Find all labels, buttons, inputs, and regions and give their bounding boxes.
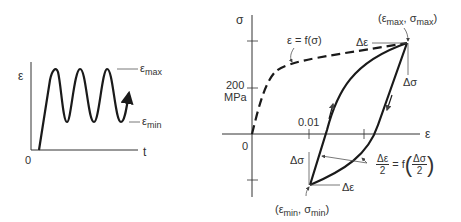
left-panel xyxy=(31,62,140,150)
lhs-den: 2 xyxy=(376,165,389,176)
lhs-fraction: Δε2 xyxy=(376,153,389,176)
max-sub1: max xyxy=(387,17,404,27)
min-point-leader xyxy=(306,187,309,196)
epsilon-axis-label: ε xyxy=(425,128,430,140)
delta-sigma-bottom-label: Δσ xyxy=(290,155,304,166)
relation-eq: = f xyxy=(392,158,405,170)
eps-tick-value: 0.01 xyxy=(298,117,319,128)
max-close: ) xyxy=(434,12,438,24)
hysteresis-relation: Δε2 = f(Δσ2) xyxy=(376,153,434,176)
strain-time-curve xyxy=(39,69,129,150)
min-close: ) xyxy=(326,203,330,215)
right-origin-label: 0 xyxy=(242,141,248,152)
sigma-tick-value: 200 xyxy=(226,80,244,91)
max-mid: , σ xyxy=(404,12,417,24)
max-point-leader xyxy=(404,28,408,41)
max-point-label: (εmax, σmax) xyxy=(378,13,437,27)
relation-leader-1 xyxy=(322,156,367,163)
lhs-num: Δε xyxy=(376,153,389,165)
min-sub1: min xyxy=(284,208,299,218)
open-paren: ( xyxy=(405,152,412,177)
left-origin-label: 0 xyxy=(25,155,31,166)
min-open: (ε xyxy=(275,203,284,215)
eps-max-sub: max xyxy=(145,67,162,77)
max-open: (ε xyxy=(378,12,387,24)
min-point-label: (εmin, σmin) xyxy=(275,204,329,218)
eps-min-sub: min xyxy=(147,120,162,130)
min-mid: , σ xyxy=(298,203,311,215)
monotonic-curve-label: ε = f(σ) xyxy=(287,35,322,46)
eps-min-label: εmin xyxy=(142,116,161,130)
eps-max-label: εmax xyxy=(140,63,162,77)
delta-sigma-top-label: Δσ xyxy=(403,77,417,88)
diagram-canvas xyxy=(0,0,461,222)
min-sub2: min xyxy=(311,208,326,218)
close-paren: ) xyxy=(427,152,434,177)
left-y-axis-label: ε xyxy=(18,70,23,82)
rhs-den: 2 xyxy=(412,165,427,176)
delta-eps-top-label: Δε xyxy=(356,37,368,48)
delta-eps-bottom-label: Δε xyxy=(342,182,354,193)
sigma-axis-label: σ xyxy=(236,14,243,26)
rhs-fraction: Δσ2 xyxy=(412,153,427,176)
max-sub2: max xyxy=(417,17,434,27)
left-x-axis-label: t xyxy=(143,146,146,158)
sigma-tick-unit: MPa xyxy=(224,92,247,103)
monotonic-label-leader xyxy=(291,48,294,62)
rhs-num: Δσ xyxy=(412,153,427,165)
